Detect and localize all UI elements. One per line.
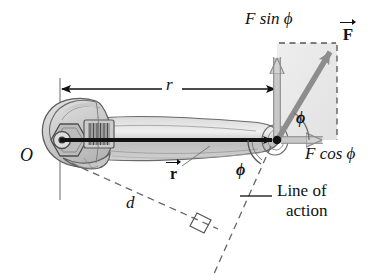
- diagram-canvas: [0, 0, 391, 276]
- position-vector-symbol: r: [166, 166, 181, 182]
- angle-lower-label: ϕ: [236, 162, 245, 178]
- vector-arrow-overbar-r: [166, 160, 181, 165]
- line-of-action-label-line2: action: [286, 202, 328, 219]
- line-of-action-label-line1: Line of: [277, 182, 327, 199]
- force-x-component-arrow: [281, 137, 323, 144]
- force-application-point: [273, 136, 282, 145]
- position-vector-label: r: [166, 160, 181, 182]
- right-angle-marker-icon: [190, 213, 211, 233]
- force-y-component-arrow: [274, 57, 281, 137]
- pivot-label: O: [20, 146, 33, 164]
- torque-diagram-figure: O r r F F sin ϕ F cos ϕ ϕ ϕ d Line of ac…: [0, 0, 391, 276]
- moment-arm-label: d: [126, 194, 135, 211]
- force-y-component-label: F sin ϕ: [245, 10, 293, 27]
- angle-upper-label: ϕ: [296, 110, 305, 126]
- force-vector-label: F: [340, 20, 356, 43]
- lever-arm-label: r: [166, 76, 173, 93]
- moment-arm-dashed: [71, 163, 218, 229]
- vector-arrow-overbar-f: [340, 20, 356, 25]
- adjustable-wrench-icon: [42, 98, 288, 169]
- force-x-component-label: F cos ϕ: [305, 145, 355, 162]
- force-vector-symbol: F: [340, 26, 356, 43]
